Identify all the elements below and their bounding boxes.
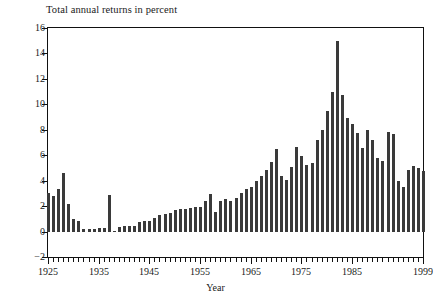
x-tick-mark-minor [134, 258, 135, 262]
x-tick-mark-minor [170, 258, 171, 262]
x-tick-mark-minor [357, 258, 358, 262]
bar [158, 215, 161, 232]
x-tick-mark-minor [367, 258, 368, 262]
bar [57, 189, 60, 232]
x-tick-mark-minor [398, 258, 399, 262]
bar-series [48, 28, 423, 257]
x-tick-mark-minor [322, 258, 323, 262]
bar [300, 156, 303, 232]
x-tick-mark-minor [246, 258, 247, 262]
bar [103, 228, 106, 232]
x-tick-mark-minor [210, 258, 211, 262]
bar [204, 201, 207, 232]
bar [224, 199, 227, 232]
x-tick-mark-minor [296, 258, 297, 262]
bar [164, 214, 167, 232]
x-tick-mark-minor [347, 258, 348, 262]
x-tick-mark-minor [53, 258, 54, 262]
bar [235, 198, 238, 232]
y-tick-label-5: 8 [5, 125, 45, 135]
bar [219, 201, 222, 232]
x-tick-mark-minor [215, 258, 216, 262]
x-tick-mark-minor [408, 258, 409, 262]
x-tick-mark-major [251, 258, 252, 264]
x-tick-mark-minor [241, 258, 242, 262]
bar [346, 118, 349, 233]
bar [108, 195, 111, 232]
bar [189, 208, 192, 232]
bar [47, 193, 50, 232]
bar [72, 219, 75, 232]
bar [240, 193, 243, 232]
x-tick-mark-major [149, 258, 150, 264]
bar [98, 228, 101, 232]
x-tick-mark-minor [220, 258, 221, 262]
x-tick-mark-minor [256, 258, 257, 262]
bar [397, 181, 400, 232]
bar [209, 194, 212, 232]
bar [153, 218, 156, 232]
bar [245, 189, 248, 232]
bar [148, 221, 151, 232]
bar [113, 231, 116, 232]
bar [336, 41, 339, 232]
x-tick-mark-minor [139, 258, 140, 262]
x-tick-mark-minor [281, 258, 282, 262]
bar [260, 176, 263, 232]
x-tick-mark-minor [63, 258, 64, 262]
x-tick-mark-minor [342, 258, 343, 262]
x-tick-mark-minor [225, 258, 226, 262]
x-tick-mark-minor [68, 258, 69, 262]
x-tick-mark-minor [205, 258, 206, 262]
bar [265, 170, 268, 232]
bar [82, 229, 85, 232]
x-tick-mark-minor [185, 258, 186, 262]
x-tick-mark-minor [393, 258, 394, 262]
bar [392, 134, 395, 232]
bar [255, 181, 258, 232]
bar [381, 161, 384, 232]
y-tick-label-9: 16 [5, 23, 45, 33]
x-tick-mark-minor [175, 258, 176, 262]
bar [285, 180, 288, 232]
x-tick-mark-minor [83, 258, 84, 262]
x-axis-title: Year [0, 282, 431, 293]
bar [88, 229, 91, 232]
x-tick-mark-minor [154, 258, 155, 262]
bar [133, 226, 136, 232]
x-tick-mark-minor [195, 258, 196, 262]
x-tick-mark-major [48, 258, 49, 264]
x-tick-mark-minor [58, 258, 59, 262]
bar [194, 207, 197, 232]
bar [270, 162, 273, 232]
bar [214, 212, 217, 232]
bar [280, 176, 283, 232]
bar [93, 229, 96, 232]
x-tick-mark-minor [109, 258, 110, 262]
bar [275, 149, 278, 232]
bar [184, 209, 187, 232]
x-tick-mark-minor [418, 258, 419, 262]
x-tick-mark-minor [266, 258, 267, 262]
x-tick-mark-minor [236, 258, 237, 262]
y-tick-label-2: 2 [5, 201, 45, 211]
x-tick-mark-minor [104, 258, 105, 262]
bar [179, 209, 182, 232]
x-tick-mark-minor [159, 258, 160, 262]
x-tick-mark-minor [312, 258, 313, 262]
bar [67, 204, 70, 232]
y-tick-label-0: −2 [5, 252, 45, 262]
x-tick-mark-minor [230, 258, 231, 262]
x-tick-mark-minor [114, 258, 115, 262]
bar [361, 148, 364, 232]
bar [371, 140, 374, 232]
x-tick-mark-major [352, 258, 353, 264]
x-tick-mark-minor [291, 258, 292, 262]
bar [331, 92, 334, 232]
x-tick-mark-minor [144, 258, 145, 262]
x-tick-mark-major [200, 258, 201, 264]
bar [229, 201, 232, 232]
x-tick-label-6: 1985 [342, 266, 362, 277]
bar [311, 163, 314, 232]
x-tick-mark-minor [377, 258, 378, 262]
